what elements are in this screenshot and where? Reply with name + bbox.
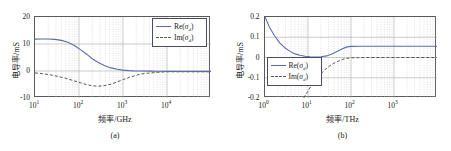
legend-line-solid-icon: [156, 26, 171, 27]
panel-a: 电导率/mS 20 10 0 -10: [0, 0, 226, 151]
panel-b-ytick-01: 0.1: [226, 32, 260, 41]
panel-b-xtick-1: 101: [301, 99, 311, 110]
panel-b-ytick-neg01: -0.1: [226, 73, 260, 82]
panel-a-x-axis-label: 频率/GHz: [10, 113, 220, 124]
panel-b: 电导率/mS 0.2 0.1 0 -0.1 -0.2: [226, 0, 451, 151]
panel-b-caption: (b): [238, 131, 448, 140]
panel-b-xtick-2: 102: [344, 99, 354, 110]
panel-b-legend-label-re: Re(σd): [289, 61, 309, 70]
panel-b-xtick-0: 100: [258, 99, 268, 110]
panel-a-xtick-4: 104: [161, 99, 171, 110]
panel-b-ytick-0: 0: [226, 52, 260, 61]
panel-a-legend: Re(σd) Im(σd): [152, 18, 207, 47]
panel-a-ytick-10: 10: [0, 39, 30, 48]
panel-b-xtick-3: 103: [387, 99, 397, 110]
panel-a-ytick-0: 0: [0, 66, 30, 75]
panel-b-legend: Re(σd) Im(σd): [267, 57, 322, 86]
panel-b-legend-row-im: Im(σd): [271, 71, 318, 82]
panel-b-ytick-02: 0.2: [226, 12, 260, 21]
panel-a-xtick-2: 102: [73, 99, 83, 110]
panel-b-ytick-neg02: -0.2: [226, 93, 260, 102]
legend-line-dashed-icon: [156, 37, 171, 38]
panel-a-legend-label-im: Im(σd): [174, 33, 194, 42]
legend-line-dashed-icon: [271, 76, 286, 77]
panel-a-caption: (a): [10, 131, 220, 140]
panel-a-ytick-20: 20: [0, 12, 30, 21]
panel-a-legend-row-im: Im(σd): [156, 32, 203, 43]
panel-a-xtick-3: 103: [117, 99, 127, 110]
panel-a-legend-label-re: Re(σd): [174, 22, 194, 31]
panel-b-legend-label-im: Im(σd): [289, 72, 309, 81]
panel-b-x-axis-label: 频率/THz: [238, 113, 448, 124]
legend-line-solid-icon: [271, 65, 286, 66]
panel-a-xtick-1: 101: [29, 99, 39, 110]
figure-container: 电导率/mS 20 10 0 -10: [0, 0, 451, 151]
panel-a-ytick-neg10: -10: [0, 93, 30, 102]
panel-a-legend-row-re: Re(σd): [156, 21, 203, 32]
panel-b-legend-row-re: Re(σd): [271, 60, 318, 71]
